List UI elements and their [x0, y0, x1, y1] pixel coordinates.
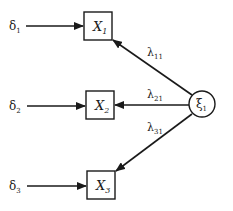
arrow-xi1-x3 — [116, 114, 192, 171]
label-lambda11: λ11 — [147, 46, 163, 61]
label-lambda31: λ31 — [147, 121, 163, 136]
label-delta3: δ3 — [9, 179, 21, 195]
label-delta1: δ1 — [9, 19, 21, 35]
label-delta2: δ2 — [9, 99, 21, 115]
label-lambda21: λ21 — [147, 88, 163, 103]
path-diagram: X1 X2 X3 ξ1 δ1 δ2 δ3 λ11 λ21 λ31 — [0, 0, 233, 211]
